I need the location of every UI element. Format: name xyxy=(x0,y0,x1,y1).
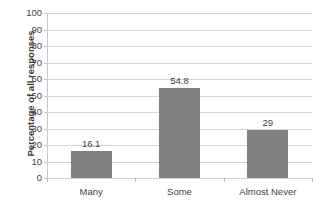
y-tick-label: 100 xyxy=(2,8,42,18)
y-tick-label: 80 xyxy=(2,41,42,51)
y-tick-label: 60 xyxy=(2,74,42,84)
bar xyxy=(71,151,112,178)
y-tick-label: 70 xyxy=(2,58,42,68)
bar-chart: Percentage of all responses 100908070605… xyxy=(0,0,323,209)
bar-value-label: 54.8 xyxy=(150,75,210,86)
y-tick-label: 40 xyxy=(2,107,42,117)
bar xyxy=(159,88,200,178)
x-category-label: Almost Never xyxy=(213,186,323,197)
bar-value-label: 29 xyxy=(238,117,298,128)
y-tick-label: 30 xyxy=(2,124,42,134)
y-tick-label: 0 xyxy=(2,173,42,183)
y-tick-label: 20 xyxy=(2,140,42,150)
bar xyxy=(247,130,288,178)
y-tick-label: 10 xyxy=(2,157,42,167)
y-tick-label: 90 xyxy=(2,25,42,35)
x-tick-mark xyxy=(135,178,136,182)
gridline xyxy=(47,178,312,179)
x-tick-mark xyxy=(224,178,225,182)
bars-layer xyxy=(47,13,312,178)
y-tick-label: 50 xyxy=(2,91,42,101)
x-tick-mark xyxy=(312,178,313,182)
x-tick-mark xyxy=(47,178,48,182)
bar-value-label: 16.1 xyxy=(61,138,121,149)
